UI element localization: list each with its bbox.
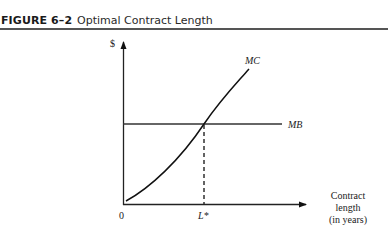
mb-label: MB	[287, 119, 302, 130]
x-axis-label-line2: length	[336, 202, 361, 213]
x-axis-label-line3: (in years)	[329, 214, 367, 226]
origin-label: 0	[119, 210, 124, 221]
mc-curve	[126, 69, 249, 201]
chart: $ 0 L* MC MB Contract length (in years)	[0, 0, 388, 242]
lstar-label: L*	[197, 210, 209, 221]
y-axis-label: $	[110, 38, 115, 49]
x-axis-label-line1: Contract	[331, 190, 366, 201]
mc-label: MC	[244, 55, 260, 66]
